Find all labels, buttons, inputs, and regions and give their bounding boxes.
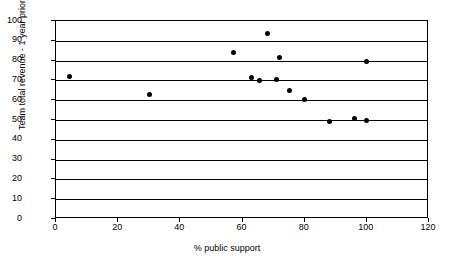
y-tick-label: 80 xyxy=(0,55,22,64)
x-tick-label: 100 xyxy=(346,223,386,232)
data-point xyxy=(249,75,254,80)
data-point xyxy=(352,116,357,121)
gridline xyxy=(56,100,427,101)
x-tick-label: 80 xyxy=(284,223,324,232)
x-axis-label: % public support xyxy=(0,243,454,253)
data-point xyxy=(231,50,236,55)
gridline xyxy=(56,80,427,81)
plot-area xyxy=(55,20,428,218)
x-tick-label: 0 xyxy=(35,223,75,232)
data-point xyxy=(265,31,270,36)
x-tick-label: 120 xyxy=(408,223,448,232)
gridline xyxy=(56,179,427,180)
gridline xyxy=(56,120,427,121)
data-point xyxy=(302,97,307,102)
x-tick-label: 20 xyxy=(97,223,137,232)
data-point xyxy=(364,59,369,64)
data-point xyxy=(257,78,262,83)
y-tick-label: 90 xyxy=(0,35,22,44)
y-tick-label: 30 xyxy=(0,154,22,163)
y-tick-label: 10 xyxy=(0,194,22,203)
y-tick-label: 40 xyxy=(0,134,22,143)
scatter-chart: Team total revenue - 1 year prior 010203… xyxy=(0,0,454,269)
y-tick-label: 50 xyxy=(0,115,22,124)
y-tick-label: 60 xyxy=(0,95,22,104)
data-point xyxy=(147,92,152,97)
data-point xyxy=(67,74,72,79)
gridline xyxy=(56,199,427,200)
data-point xyxy=(277,55,282,60)
x-tick-label: 40 xyxy=(159,223,199,232)
gridline xyxy=(56,41,427,42)
data-point xyxy=(364,118,369,123)
y-tick-label: 20 xyxy=(0,174,22,183)
gridline xyxy=(56,61,427,62)
x-tick-label: 60 xyxy=(222,223,262,232)
y-tick-label: 100 xyxy=(0,16,22,25)
y-tick-label: 0 xyxy=(0,214,22,223)
gridline xyxy=(56,160,427,161)
y-tick-label: 70 xyxy=(0,75,22,84)
data-point xyxy=(287,88,292,93)
gridline xyxy=(56,140,427,141)
data-point xyxy=(327,119,332,124)
